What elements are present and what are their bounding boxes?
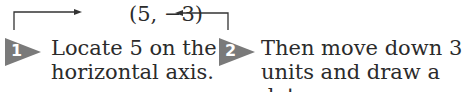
step-1-line-1: Locate 5 on the (51, 36, 217, 60)
step-2-line-2: units and draw a dot. (261, 60, 467, 92)
step-2-text: Then move down 3 units and draw a dot. (261, 36, 467, 92)
pointer-arrows (0, 0, 467, 40)
step-1-badge: 1 (5, 36, 49, 68)
right-arrowhead-icon (74, 9, 82, 15)
step-2-line-1: Then move down 3 (261, 36, 467, 60)
step-1-text: Locate 5 on the horizontal axis. (51, 36, 217, 84)
step-2-badge: 2 (219, 36, 259, 68)
step-2: 2 Then move down 3 units and draw a dot. (219, 36, 467, 92)
step-1-line-2: horizontal axis. (51, 60, 217, 84)
step-2-number: 2 (225, 40, 236, 62)
step-1-number: 1 (11, 40, 22, 62)
x-pointer-arrow (14, 12, 78, 30)
step-1: 1 Locate 5 on the horizontal axis. (5, 36, 217, 84)
ordered-pair-label: (5, −3) (129, 2, 203, 26)
